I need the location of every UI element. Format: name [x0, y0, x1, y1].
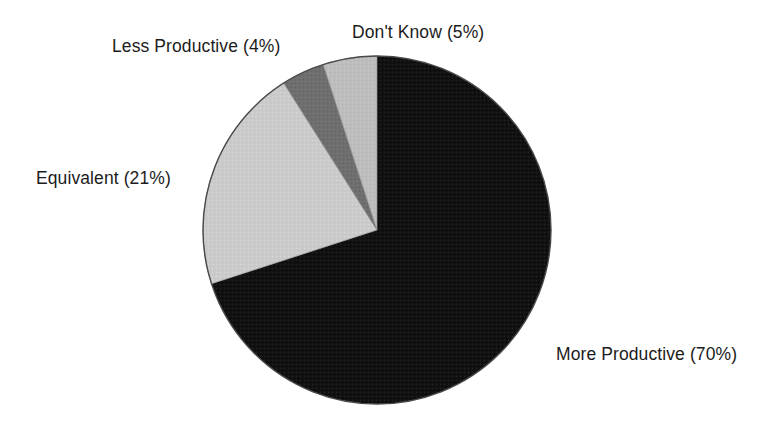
pie-slices [203, 56, 551, 404]
pie-chart: More Productive (70%) Equivalent (21%) L… [0, 0, 780, 426]
slice-label-less-productive: Less Productive (4%) [112, 36, 280, 56]
slice-label-dont-know: Don't Know (5%) [352, 22, 484, 42]
slice-label-more-productive: More Productive (70%) [556, 344, 737, 364]
slice-label-equivalent: Equivalent (21%) [36, 168, 171, 188]
